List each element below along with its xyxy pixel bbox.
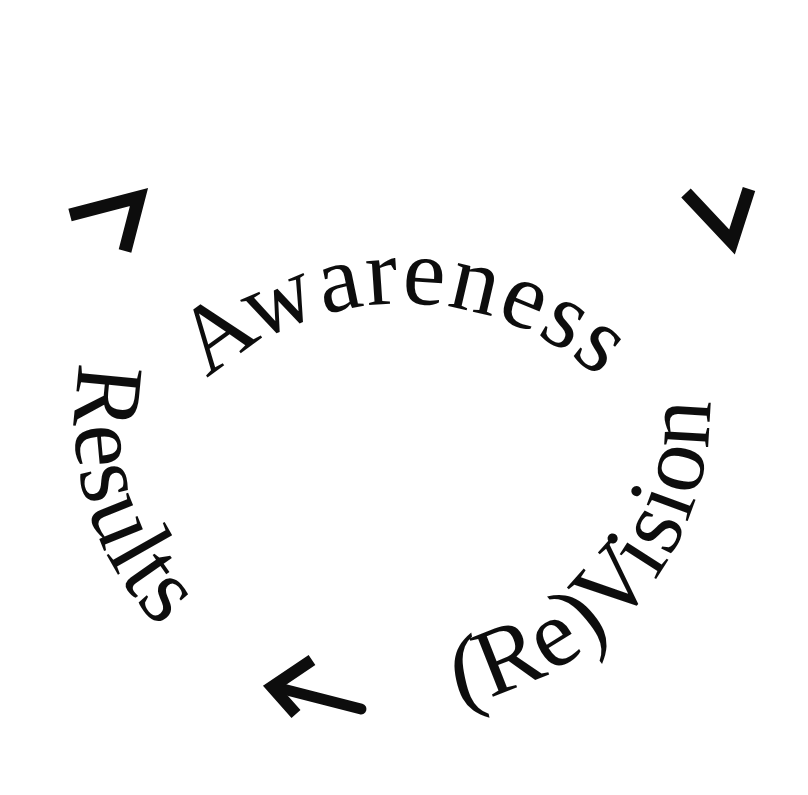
label-revision-textpath: (Re)Vision xyxy=(439,395,732,724)
cycle-diagram: Awareness (Re)Vision Results xyxy=(0,0,808,795)
label-results: Results xyxy=(52,360,225,643)
label-awareness: Awareness xyxy=(156,217,654,395)
cycle-diagram-canvas: Awareness (Re)Vision Results xyxy=(0,0,808,795)
arrow-top-left-icon xyxy=(70,197,139,251)
label-revision: (Re)Vision xyxy=(439,395,732,724)
arrow-top-right-chevron xyxy=(686,189,749,242)
arrow-top-right-icon xyxy=(686,189,749,242)
arrow-top-left-chevron xyxy=(70,197,139,251)
label-results-textpath: Results xyxy=(52,360,225,643)
arrow-bottom-icon xyxy=(272,660,361,714)
label-awareness-textpath: Awareness xyxy=(156,217,654,395)
